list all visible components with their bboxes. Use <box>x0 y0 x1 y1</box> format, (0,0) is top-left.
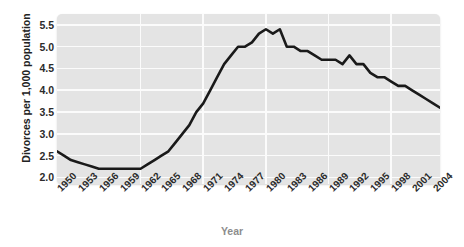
y-axis-tick-label: 4.5 <box>10 63 54 73</box>
y-axis-tick-label: 3.0 <box>10 129 54 139</box>
y-axis-tick-label: 2.0 <box>10 172 54 182</box>
data-series-line <box>57 14 440 184</box>
x-axis-title: Year <box>0 225 464 237</box>
y-axis-tick-label: 5.0 <box>10 42 54 52</box>
y-axis-tick-label: 2.5 <box>10 151 54 161</box>
y-axis-title: Divorces per 1,000 population <box>20 0 32 178</box>
series-polyline <box>57 29 440 168</box>
y-axis-tick-label: 4.0 <box>10 85 54 95</box>
y-axis-tick-label: 3.5 <box>10 107 54 117</box>
plot-area <box>57 14 440 184</box>
y-axis-tick-label: 5.5 <box>10 20 54 30</box>
x-axis-tick-labels: 1950195319561959196219651968197119741977… <box>57 186 440 226</box>
divorce-rate-line-chart: 2.02.53.03.54.04.55.05.5 Divorces per 1,… <box>0 0 464 247</box>
